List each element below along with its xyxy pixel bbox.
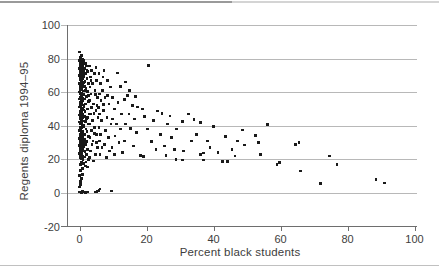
data-point [104,129,107,132]
gridline [61,59,417,60]
data-point [90,79,93,82]
gridline [61,193,417,194]
data-point [133,118,136,121]
data-point [206,140,209,143]
bottom-rule [0,265,439,266]
data-point [92,103,95,106]
gridline [61,126,417,127]
data-point [111,118,114,121]
data-point [84,80,87,83]
data-point [142,155,145,158]
data-point [86,130,89,133]
data-point [143,115,146,118]
data-point [134,95,137,98]
data-point [86,108,89,111]
data-point [119,85,122,88]
data-point [81,167,84,170]
data-point [120,113,123,116]
y-tick-label: 60 [26,85,60,99]
data-point [131,104,134,107]
data-point [100,99,103,102]
data-point [175,158,178,161]
data-point [124,123,127,126]
data-point [107,136,110,139]
data-point [231,148,234,151]
data-point [80,177,83,180]
data-point [80,161,83,164]
data-point [136,106,139,109]
x-tick-mark [415,227,416,231]
data-point [86,166,89,169]
x-axis-title: Percent black students [140,246,340,258]
data-point [79,183,82,186]
data-point [94,89,97,92]
scatter-figure: Regents diploma 1994–95 0204060801001008… [0,0,439,277]
data-point [78,51,81,54]
data-point [319,182,322,185]
data-point [224,135,227,138]
data-point [83,145,86,148]
data-point [175,128,178,131]
data-point [84,89,87,92]
data-point [97,106,100,109]
data-point [90,69,93,72]
data-point [169,115,172,118]
x-tick-label: 80 [328,232,368,246]
data-point [266,123,269,126]
data-point [90,129,93,132]
data-point [86,191,89,194]
data-point [91,143,94,146]
data-point [128,113,131,116]
data-point [110,190,113,193]
data-point [165,154,168,157]
x-tick-label: 40 [194,232,234,246]
data-point [78,186,81,189]
data-point [99,188,102,191]
data-point [298,141,301,144]
data-point [173,148,176,151]
data-point [85,161,88,164]
data-point [102,109,105,112]
data-point [383,182,386,185]
x-tick-label: 100 [395,232,435,246]
data-point [106,94,109,97]
data-point [156,110,159,113]
data-point [98,93,101,96]
data-point [336,163,339,166]
data-point [259,153,262,156]
y-axis-line [67,25,68,227]
data-point [101,146,104,149]
x-tick-mark [214,227,215,231]
data-point [105,156,108,159]
data-point [299,170,302,173]
data-point [86,116,89,119]
data-point [212,125,215,128]
data-point [96,96,99,99]
data-point [100,119,103,122]
data-point [89,76,92,79]
y-tick-label: 20 [26,152,60,166]
data-point [88,123,91,126]
data-point [89,150,92,153]
data-point [257,141,260,144]
data-point [89,113,92,116]
data-point [109,86,112,89]
data-point [111,146,114,149]
data-point [95,66,98,69]
data-point [98,72,101,75]
data-point [113,108,116,111]
data-point [108,150,111,153]
data-point [241,129,244,132]
data-point [328,155,331,158]
data-point [103,143,106,146]
data-point [93,132,96,135]
data-point [83,105,86,108]
data-point [135,131,138,134]
data-point [103,69,106,72]
data-point [115,123,118,126]
data-point [117,101,120,104]
data-point [146,128,149,131]
data-point [98,140,101,143]
data-point [83,98,86,101]
data-point [88,99,91,102]
